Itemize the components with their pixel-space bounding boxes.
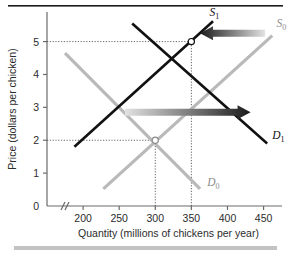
y-tick-label-4: 4	[33, 68, 39, 80]
x-tick-label-350: 350	[183, 212, 201, 224]
x-tick-label-450: 450	[255, 212, 273, 224]
x-tick-label-300: 300	[147, 212, 165, 224]
x-tick-label-200: 200	[74, 212, 92, 224]
y-tick-label-3: 3	[33, 101, 39, 113]
y-tick-label-5: 5	[33, 36, 39, 48]
top-rule	[8, 5, 283, 7]
x-tick-label-250: 250	[110, 212, 128, 224]
y-origin-label: 0	[33, 200, 39, 212]
supply-shift-arrow	[200, 26, 265, 40]
bottom-bar	[14, 246, 277, 250]
curve-label-d1: D1	[271, 129, 284, 144]
y-axis-title: Price (dollars per chicken)	[6, 48, 18, 169]
chart-canvas: 123450200250300350400450Quantity (millio…	[0, 0, 291, 255]
equilibrium-original-marker	[152, 137, 158, 143]
y-tick-label-1: 1	[33, 167, 39, 179]
supply-demand-figure: 123450200250300350400450Quantity (millio…	[0, 0, 291, 255]
curve-label-s1: S1	[209, 6, 219, 21]
equilibrium-new-marker	[188, 38, 194, 44]
demand-shift-arrow	[125, 105, 251, 119]
x-tick-label-400: 400	[219, 212, 237, 224]
curve-label-s0: S0	[277, 17, 287, 32]
y-tick-label-2: 2	[33, 134, 39, 146]
x-axis-title: Quantity (millions of chickens per year)	[78, 227, 259, 239]
curve-d1	[132, 24, 267, 144]
curve-label-d0: D0	[206, 176, 219, 191]
